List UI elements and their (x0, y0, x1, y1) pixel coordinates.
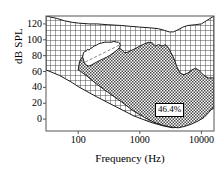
plot-canvas (0, 0, 224, 173)
percent-annotation: 46.4% (155, 103, 184, 117)
plot-regions (46, 16, 214, 128)
auditory-field-chart: dB SPL Frequency (Hz) 020406080100120 10… (0, 0, 224, 173)
